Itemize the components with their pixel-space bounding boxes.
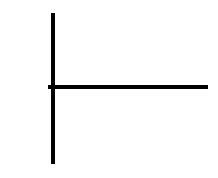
- velocity-time-chart: [0, 0, 218, 178]
